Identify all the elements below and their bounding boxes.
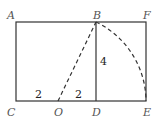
label-E: E — [142, 106, 151, 119]
label-B: B — [92, 9, 101, 22]
label-O: O — [54, 106, 63, 119]
geometry-figure: A B F C O D E 2 2 4 — [0, 0, 156, 125]
label-D: D — [91, 106, 101, 119]
measure-CO: 2 — [35, 88, 42, 101]
label-F: F — [142, 9, 151, 22]
measure-OD: 2 — [75, 88, 82, 101]
label-A: A — [6, 9, 15, 22]
label-C: C — [7, 106, 16, 119]
measure-BD: 4 — [100, 55, 107, 68]
